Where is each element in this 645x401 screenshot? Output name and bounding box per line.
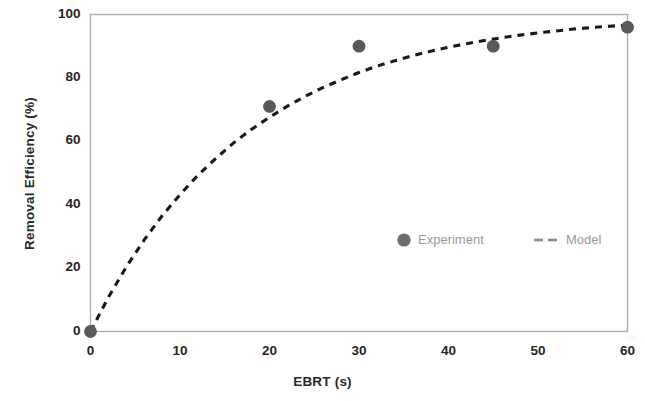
experiment-point xyxy=(353,40,366,53)
experiment-point xyxy=(621,21,634,34)
x-tick-label: 50 xyxy=(508,343,568,358)
x-tick-label: 60 xyxy=(598,343,645,358)
x-tick-label: 0 xyxy=(61,343,121,358)
y-tick-label: 20 xyxy=(21,259,81,274)
experiment-point xyxy=(84,325,97,338)
y-tick-label: 80 xyxy=(21,69,81,84)
y-tick-label: 100 xyxy=(21,6,81,21)
y-tick-label: 60 xyxy=(21,132,81,147)
y-tick-label: 40 xyxy=(21,196,81,211)
experiment-point xyxy=(487,40,500,53)
experiment-point xyxy=(263,100,276,113)
chart-figure: EBRT (s) Removal Efficiency (%) 02040608… xyxy=(0,0,645,401)
removal-efficiency-scatter-chart xyxy=(0,0,645,401)
x-tick-label: 30 xyxy=(329,343,389,358)
y-tick-label: 0 xyxy=(21,323,81,338)
legend-experiment-marker-icon xyxy=(397,233,410,246)
x-axis-title: EBRT (s) xyxy=(0,374,645,389)
legend-label-model: Model xyxy=(566,232,601,247)
x-tick-label: 40 xyxy=(419,343,479,358)
plot-frame xyxy=(91,15,628,332)
legend-label-experiment: Experiment xyxy=(418,232,484,247)
x-tick-label: 10 xyxy=(150,343,210,358)
x-tick-label: 20 xyxy=(240,343,300,358)
